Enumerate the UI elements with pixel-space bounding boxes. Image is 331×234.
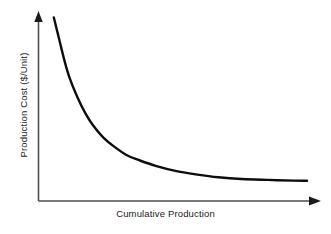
y-axis-label: Production Cost ($/Unit) — [19, 25, 32, 185]
chart-plot-area — [0, 0, 331, 234]
chart-figure: Production Cost ($/Unit) Cumulative Prod… — [0, 0, 331, 234]
experience-curve-line — [54, 18, 307, 181]
x-axis-label: Cumulative Production — [0, 209, 331, 219]
y-axis-arrowhead-icon — [34, 11, 42, 22]
x-axis-arrowhead-icon — [309, 197, 321, 206]
